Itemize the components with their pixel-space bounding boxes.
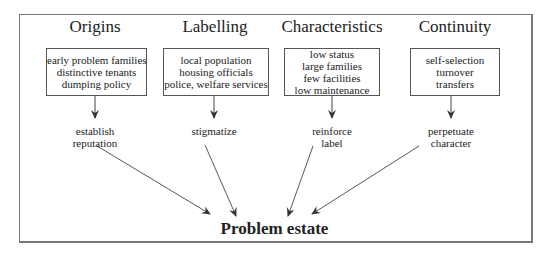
arrow-label-to-outcome [288, 146, 313, 216]
result-line: reputation [35, 137, 155, 149]
box-item: local population [164, 54, 268, 66]
box-item: low status [285, 48, 379, 60]
result-line: perpetuate [391, 125, 511, 137]
result-line: establish [35, 125, 155, 137]
box-continuity: self-selection turnover transfers [410, 48, 500, 96]
box-origins: early problem families distinctive tenan… [46, 48, 147, 96]
heading-origins: Origins [25, 17, 165, 37]
box-item: distinctive tenants [47, 66, 146, 78]
box-item: housing officials [164, 66, 268, 78]
result-origins: establish reputation [35, 125, 155, 149]
box-item: low maintenance [285, 84, 379, 96]
heading-characteristics: Characteristics [262, 17, 402, 37]
arrow-character-to-outcome [312, 146, 419, 214]
box-item: early problem families [47, 54, 146, 66]
box-item: transfers [411, 78, 499, 90]
heading-continuity: Continuity [385, 17, 525, 37]
result-line: stigmatize [154, 125, 274, 137]
result-characteristics: reinforce label [272, 125, 392, 149]
box-item: self-selection [411, 54, 499, 66]
box-item: police, welfare services [164, 78, 268, 90]
box-item: turnover [411, 66, 499, 78]
result-line: label [272, 137, 392, 149]
box-item: large families [285, 60, 379, 72]
outcome-label: Problem estate [0, 219, 549, 239]
arrow-stigmatize-to-outcome [205, 145, 236, 216]
box-item: dumping policy [47, 78, 146, 90]
arrow-reputation-to-outcome [97, 146, 210, 214]
result-continuity: perpetuate character [391, 125, 511, 149]
result-line: character [391, 137, 511, 149]
result-labelling: stigmatize [154, 125, 274, 137]
box-item: few facilities [285, 72, 379, 84]
box-labelling: local population housing officials polic… [163, 48, 269, 96]
box-characteristics: low status large families few facilities… [284, 48, 380, 96]
result-line: reinforce [272, 125, 392, 137]
